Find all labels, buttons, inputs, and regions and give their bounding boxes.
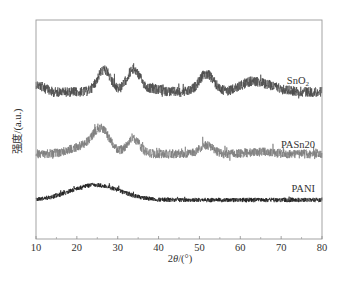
x-tick-label: 40: [153, 242, 164, 253]
x-tick-label: 20: [72, 242, 83, 253]
x-tick-label: 70: [276, 242, 287, 253]
xrd-chart: 1020304050607080 SnO2PASn20PANI 2θ/(°) 强…: [0, 0, 342, 285]
x-tick-label: 80: [317, 242, 328, 253]
y-axis-title: 强度/(a.u.): [11, 108, 24, 154]
series-label-pasn20: PASn20: [281, 139, 315, 150]
x-tick-label: 30: [112, 242, 123, 253]
x-tick-label: 60: [235, 242, 246, 253]
x-tick-label: 50: [194, 242, 205, 253]
x-axis-title: 2θ/(°): [168, 253, 193, 265]
x-tick-label: 10: [31, 242, 42, 253]
x-axis-title-suffix: /(°): [178, 253, 193, 265]
series-label-pani: PANI: [291, 183, 315, 194]
